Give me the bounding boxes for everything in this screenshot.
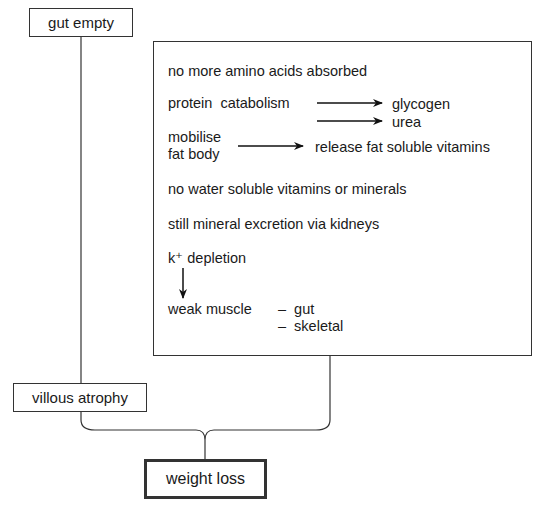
protein-text: protein catabolism	[168, 96, 290, 111]
k-depletion-text: k⁺ depletion	[168, 251, 246, 266]
glycogen-text: glycogen	[392, 97, 450, 112]
urea-text: urea	[392, 115, 421, 130]
weak-muscle-text: weak muscle	[168, 302, 252, 317]
gut-empty-label: gut empty	[48, 14, 114, 31]
skeletal-text: – skeletal	[278, 319, 343, 334]
weight-loss-node: weight loss	[144, 459, 267, 499]
excretion-text: still mineral excretion via kidneys	[168, 217, 379, 232]
fat-body-text: fat body	[168, 147, 220, 162]
mobilise-text: mobilise	[168, 130, 221, 145]
villous-atrophy-label: villous atrophy	[32, 389, 128, 406]
amino-text: no more amino acids absorbed	[168, 64, 367, 79]
gut-empty-node: gut empty	[29, 8, 133, 37]
villous-atrophy-node: villous atrophy	[13, 383, 147, 412]
water-text: no water soluble vitamins or minerals	[168, 182, 407, 197]
gut-text: – gut	[278, 302, 314, 317]
release-text: release fat soluble vitamins	[315, 140, 490, 155]
weight-loss-label: weight loss	[166, 470, 245, 488]
